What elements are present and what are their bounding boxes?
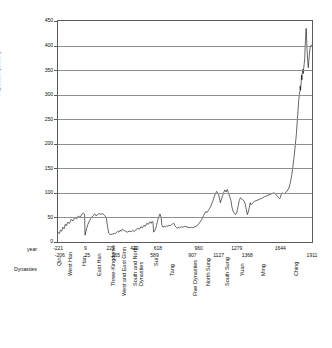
population-line [58,28,312,235]
year-tick-label: 9 [84,246,87,251]
dynasty-label: Ming [260,264,266,276]
y-axis-tick-label: 450 [31,18,53,23]
year-tick-label: 1127 [213,253,224,258]
y-axis-tick-label: 100 [31,190,53,195]
dynasty-label: Five Dynasties [192,260,198,296]
dynasty-label: Han [81,256,87,266]
gridline [58,144,312,145]
y-axis-title: Population(Million) [0,0,1,96]
gridline [58,119,312,120]
dynasty-label: West Han [67,252,73,276]
dynasty-label: North Sung [205,258,211,286]
year-tick-label: 1368 [242,253,253,258]
data-line-svg [58,21,312,242]
year-row-header: year [27,246,37,252]
year-tick-label: 1911 [307,253,318,258]
dynasty-label: South and North Dynasties [132,246,144,286]
population-chart: Population(Million) 05010015020025030035… [0,0,332,348]
dynasty-label: Tang [169,264,175,276]
gridline [58,70,312,71]
gridline [58,217,312,218]
dynasty-label: Ching [293,262,299,276]
y-axis-tick-label: 350 [31,68,53,73]
year-tick-label: -221 [53,246,63,251]
gridline [58,193,312,194]
gridline [58,168,312,169]
dynasty-label: Three-Kingdoms [110,245,116,286]
dynasties-row-header: Dynasties [14,266,37,272]
gridline [58,46,312,47]
dynasty-label: Sui [153,258,159,266]
plot-area [57,20,313,243]
y-axis-tick-label: 300 [31,92,53,97]
year-tick-label: 1644 [275,246,286,251]
y-axis-tick-label: 400 [31,43,53,48]
y-axis-tick-label: 200 [31,141,53,146]
y-axis-tick-label: 0 [31,239,53,244]
dynasty-label: West and East Ginn [121,247,127,296]
y-axis-tick-label: 250 [31,117,53,122]
y-axis-tick-label: 150 [31,166,53,171]
year-tick-label: 907 [188,253,196,258]
dynasty-label: East Han [96,253,102,276]
year-tick-label: 960 [195,246,203,251]
y-axis-tick-label: 50 [31,215,53,220]
gridline [58,95,312,96]
dynasty-label: Qin [56,257,62,266]
year-tick-label: 1279 [231,246,242,251]
dynasty-label: Yuan [238,263,244,276]
year-tick-label: 618 [154,246,162,251]
dynasty-label: South Sung [224,257,230,286]
